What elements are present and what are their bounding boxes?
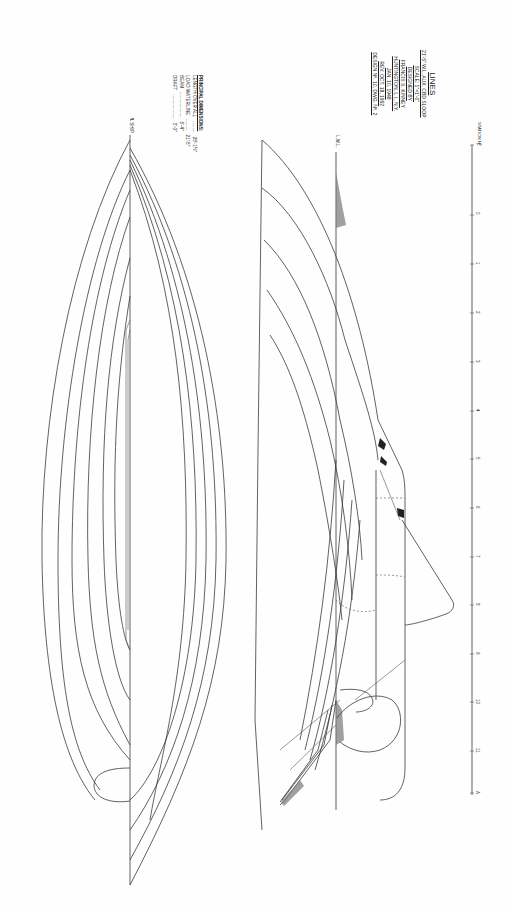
half-breadth-plan: [42, 135, 226, 885]
design-number: DESIGN Nº. 10, DWG. Nº. 2: [371, 50, 378, 117]
station-label: 5: [475, 457, 480, 460]
lines-drawing: [0, 0, 512, 912]
revision-date: REV. OCT. 18, 1952: [378, 50, 385, 117]
station-label: 4: [475, 409, 480, 412]
profile-plan: [255, 140, 454, 830]
drawing-title: LINES: [427, 50, 437, 117]
designed-by: DESIGNED BY: [406, 50, 413, 117]
dimension-row: LENGTH OVER ALL ......... 28'-1½": [190, 75, 196, 152]
dimension-row: DRAFT ................... 3'-0": [171, 75, 177, 152]
station-label: 11: [475, 748, 480, 753]
dimension-label: DRAFT: [171, 75, 177, 90]
title-block: LINES 21'-5" W.L. AUX. CBD SLOOP SCALE: …: [371, 50, 437, 117]
dimension-value: 28'-1½": [190, 137, 196, 153]
station-label: 3: [475, 360, 480, 363]
designer-name: FRANCIS S. KINNEY: [399, 50, 406, 117]
dimension-row: LOAD WATERLINE ......... 21'-5": [184, 75, 190, 152]
centerline-label: ℄ SHIP: [129, 118, 134, 133]
dimension-value: 6'-4": [177, 122, 183, 131]
dimension-label: BEAM: [177, 75, 183, 88]
station-label: 1: [475, 262, 480, 265]
station-label: 10: [475, 699, 480, 704]
station-label: 8: [475, 603, 480, 606]
dimension-label: LOAD WATERLINE: [184, 75, 190, 115]
station-label: 7: [475, 555, 480, 558]
drawing-date: JAN. 10, 1948: [385, 50, 392, 117]
dimensions-heading: PRINCIPAL DIMENSIONS:: [197, 75, 203, 152]
dimension-value: 3'-0": [171, 123, 177, 132]
station-heading: STATION Nº: [477, 122, 482, 145]
designer-location: HUNTINGTON, L.I., N.Y.: [392, 50, 399, 117]
drawing-scale: SCALE: 1"=1'-0": [413, 50, 420, 117]
vessel-description: 21'-5" W.L. AUX. CBD SLOOP: [420, 50, 427, 117]
principal-dimensions: PRINCIPAL DIMENSIONS: LENGTH OVER ALL ..…: [171, 75, 203, 152]
station-label: 6: [475, 506, 480, 509]
lwl-label: L.W.L.: [335, 135, 340, 148]
dimension-label: LENGTH OVER ALL: [190, 75, 196, 117]
station-scale: [470, 145, 474, 795]
dimension-value: 21'-5": [184, 135, 190, 147]
lines-drawing-sheet: F 0 1 2 3 4 5 6 7 8 9 10 11 A STATION Nº…: [0, 0, 512, 912]
station-label: A: [475, 791, 480, 794]
station-label: 2: [475, 311, 480, 314]
station-label: 0: [475, 212, 480, 215]
station-label: 9: [475, 652, 480, 655]
